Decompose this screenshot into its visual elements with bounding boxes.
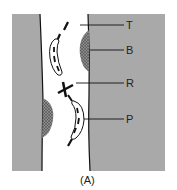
caption: (A) <box>80 174 95 186</box>
marker-r <box>58 82 73 101</box>
bump-left <box>42 98 53 138</box>
bacterium-lower <box>68 101 84 146</box>
left-wall <box>12 14 43 171</box>
bump-b <box>80 30 89 72</box>
label-r: R <box>126 77 134 89</box>
diagram: T B R P (A) <box>0 0 177 190</box>
bacterium-upper <box>50 22 68 75</box>
label-t: T <box>126 19 133 31</box>
right-wall <box>88 14 165 171</box>
label-b: B <box>126 44 133 56</box>
label-p: P <box>126 113 133 125</box>
